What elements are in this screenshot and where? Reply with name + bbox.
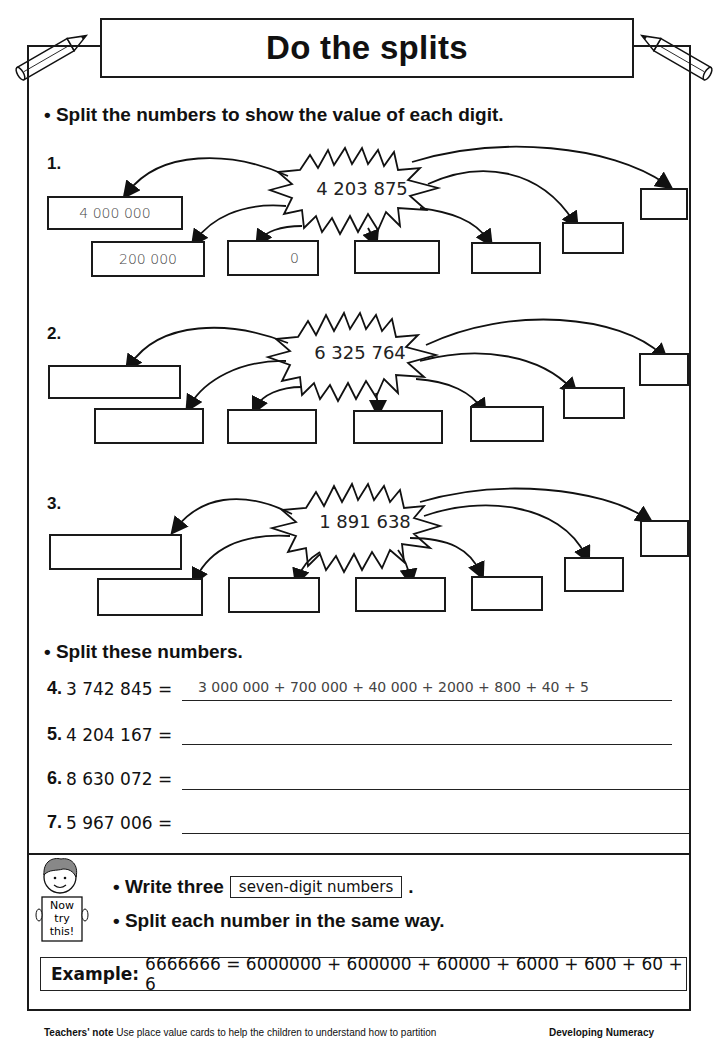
split-row-4: 4. 3 742 845 =	[47, 678, 172, 699]
answer-box-hundred-thousands[interactable]: 200 000	[91, 241, 205, 277]
answer-box-millions[interactable]	[48, 365, 181, 399]
answer-box-hundreds[interactable]	[471, 576, 543, 611]
page-title: Do the splits	[266, 29, 468, 67]
answer-box-hundred-thousands[interactable]	[97, 578, 203, 616]
target-number-1: 4 203 875	[297, 178, 427, 199]
target-number-2: 6 325 764	[295, 342, 425, 363]
teachers-note: Teachers' note Use place value cards to …	[44, 1027, 436, 1038]
example-box: Example: 6666666 = 6000000 + 600000 + 60…	[40, 957, 687, 991]
split-row-6: 6. 8 630 072 =	[47, 768, 172, 789]
sign-text-this: this!	[50, 925, 74, 938]
note-text: Use place value cards to help the childr…	[116, 1027, 436, 1038]
now-try-this-character-icon: Now try this!	[33, 857, 91, 945]
row-number: 4 204 167 =	[66, 725, 172, 745]
split-row-7: 7. 5 967 006 =	[47, 812, 172, 833]
example-equation: 6666666 = 6000000 + 600000 + 60000 + 600…	[145, 954, 686, 994]
sign-text-try: try	[54, 912, 70, 925]
answer-box-ten-thousands[interactable]	[228, 577, 320, 613]
answer-box-ones[interactable]	[640, 188, 688, 220]
row-label: 5.	[47, 724, 62, 745]
answer-box-ten-thousands[interactable]: 0	[227, 240, 319, 276]
instruction-split-digits: • Split the numbers to show the value of…	[44, 104, 504, 126]
split-row-5: 5. 4 204 167 =	[47, 724, 172, 745]
answer-line-7[interactable]	[182, 833, 689, 834]
answer-box-tens[interactable]	[564, 557, 624, 592]
note-label: Teachers' note	[44, 1027, 113, 1038]
section-divider	[27, 853, 691, 855]
seven-digit-badge: seven-digit numbers	[230, 876, 402, 898]
answer-box-ones[interactable]	[639, 353, 689, 386]
answer-box-thousands[interactable]	[353, 410, 443, 444]
row-label: 4.	[47, 678, 62, 699]
title-box: Do the splits	[100, 18, 634, 78]
answer-line-4[interactable]	[182, 700, 672, 701]
answer-box-tens[interactable]	[563, 387, 625, 419]
answer-box-tens[interactable]	[562, 222, 624, 254]
answer-box-millions[interactable]	[49, 534, 182, 570]
answer-box-ten-thousands[interactable]	[227, 409, 317, 444]
sign-text-now: Now	[50, 899, 74, 912]
row-label: 7.	[47, 812, 62, 833]
row-number: 5 967 006 =	[66, 813, 172, 833]
row-number: 8 630 072 =	[66, 769, 172, 789]
try-suffix: .	[408, 876, 413, 898]
answer-box-hundreds[interactable]	[470, 406, 544, 442]
try-instruction-2: • Split each number in the same way.	[113, 910, 445, 932]
try-instruction-1: • Write three seven-digit numbers .	[113, 876, 414, 898]
answer-line-6[interactable]	[182, 789, 689, 790]
answer-box-thousands[interactable]	[355, 577, 446, 612]
example-label: Example:	[51, 964, 139, 984]
instruction-split-these: • Split these numbers.	[44, 641, 243, 663]
answer-line-5[interactable]	[182, 744, 672, 745]
series-name: Developing Numeracy	[549, 1027, 654, 1038]
answer-box-hundreds[interactable]	[471, 242, 541, 274]
answer-box-millions[interactable]: 4 000 000	[47, 196, 183, 230]
target-number-3: 1 891 638	[300, 511, 430, 532]
answer-text-4: 3 000 000 + 700 000 + 40 000 + 2000 + 80…	[198, 679, 589, 695]
answer-box-hundred-thousands[interactable]	[94, 408, 204, 444]
row-number: 3 742 845 =	[66, 679, 172, 699]
answer-box-thousands[interactable]	[354, 240, 440, 274]
answer-box-ones[interactable]	[640, 520, 689, 557]
try-prefix: • Write three	[113, 876, 224, 898]
row-label: 6.	[47, 768, 62, 789]
